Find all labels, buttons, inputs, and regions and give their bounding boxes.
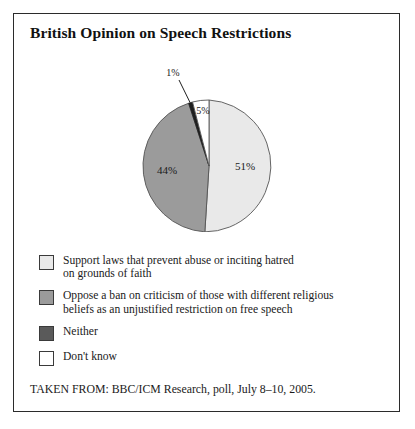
pie-label-44: 44% (156, 164, 176, 176)
legend-label-support: Support laws that prevent abuse or incit… (63, 254, 294, 280)
legend-label-dont-know: Don't know (63, 350, 117, 363)
page-title: British Opinion on Speech Restrictions (30, 24, 291, 42)
legend-item-dont-know: Don't know (39, 350, 389, 366)
pie-chart: 51% 44% 1% 5% (97, 52, 317, 232)
legend-swatch-support (39, 255, 54, 270)
legend-item-neither: Neither (39, 325, 389, 341)
pie-label-1: 1% (166, 67, 179, 78)
pie-label-5: 5% (196, 105, 209, 116)
legend-item-oppose: Oppose a ban on criticism of those with … (39, 289, 389, 315)
legend-label-oppose: Oppose a ban on criticism of those with … (63, 289, 334, 315)
legend: Support laws that prevent abuse or incit… (39, 254, 389, 375)
legend-swatch-neither (39, 326, 54, 341)
legend-swatch-dont-know (39, 351, 54, 366)
source-attribution: TAKEN FROM: BBC/ICM Research, poll, July… (30, 382, 316, 397)
legend-item-support: Support laws that prevent abuse or incit… (39, 254, 389, 280)
figure-frame: British Opinion on Speech Restrictions 5… (13, 13, 400, 412)
legend-label-neither: Neither (63, 325, 98, 338)
pie-chart-area: 51% 44% 1% 5% (14, 52, 399, 252)
leader-line-1-percent (179, 80, 190, 103)
pie-label-51: 51% (234, 160, 254, 172)
legend-swatch-oppose (39, 290, 54, 305)
